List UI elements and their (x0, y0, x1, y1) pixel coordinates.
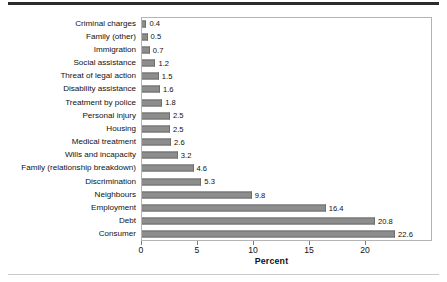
bar-row: Discrimination5.3 (0, 175, 447, 188)
bar-and-value: 3.2 (142, 152, 191, 159)
bar-row: Criminal charges0.4 (0, 17, 447, 30)
category-label: Disability assistance (0, 85, 136, 93)
bar-row: Neighbours9.8 (0, 188, 447, 201)
bar-and-value: 4.6 (142, 165, 207, 172)
bar-value-label: 5.3 (204, 178, 215, 186)
bar-row: Housing2.5 (0, 122, 447, 135)
bar-value-label: 4.6 (197, 165, 208, 173)
bar-value-label: 1.8 (165, 99, 176, 107)
bar-row: Employment16.4 (0, 201, 447, 214)
category-label: Treatment by police (0, 99, 136, 107)
category-label: Housing (0, 125, 136, 133)
bar (142, 231, 395, 238)
bar-row: Medical treatment2.6 (0, 136, 447, 149)
bar-and-value: 0.7 (142, 46, 163, 53)
bar-value-label: 0.4 (149, 20, 160, 28)
top-divider-rule (8, 2, 439, 5)
bar-and-value: 9.8 (142, 191, 265, 198)
bar (142, 204, 326, 211)
bar-row: Threat of legal action1.5 (0, 70, 447, 83)
category-label: Family (relationship breakdown) (0, 164, 136, 172)
x-axis-title: Percent (0, 256, 447, 266)
bar-value-label: 20.8 (378, 217, 393, 225)
category-label: Family (other) (0, 33, 136, 41)
bar (142, 73, 159, 80)
x-axis-tick-label: 5 (195, 246, 200, 255)
bar (142, 33, 148, 40)
bar-value-label: 1.6 (163, 86, 174, 94)
bar-value-label: 9.8 (255, 191, 266, 199)
bar (142, 99, 162, 106)
bar-rows-container: Criminal charges0.4Family (other)0.5Immi… (0, 17, 447, 241)
bar-and-value: 1.2 (142, 60, 169, 67)
bar-and-value: 16.4 (142, 204, 343, 211)
bar-and-value: 2.5 (142, 112, 184, 119)
x-axis-title-label: Percent (255, 256, 289, 266)
bar (142, 165, 194, 172)
bar-row: Debt20.8 (0, 215, 447, 228)
bar-value-label: 1.2 (158, 59, 169, 67)
category-label: Wills and incapacity (0, 151, 136, 159)
category-label: Debt (0, 217, 136, 225)
bar-and-value: 0.4 (142, 20, 160, 27)
bar-row: Wills and incapacity3.2 (0, 149, 447, 162)
category-label: Personal injury (0, 112, 136, 120)
figure-root: Criminal charges0.4Family (other)0.5Immi… (0, 0, 447, 282)
bar-value-label: 1.5 (162, 72, 173, 80)
bar-and-value: 1.8 (142, 99, 176, 106)
bar (142, 60, 155, 67)
bar-value-label: 22.6 (398, 231, 413, 239)
category-label: Consumer (0, 230, 136, 238)
bar (142, 46, 150, 53)
category-label: Immigration (0, 46, 136, 54)
bottom-divider-rule (8, 274, 439, 275)
bar-value-label: 0.5 (151, 33, 162, 41)
bar (142, 178, 201, 185)
bar (142, 125, 170, 132)
bar-value-label: 16.4 (329, 204, 344, 212)
category-label: Neighbours (0, 191, 136, 199)
bar (142, 218, 375, 225)
category-label: Threat of legal action (0, 72, 136, 80)
bar-and-value: 22.6 (142, 231, 413, 238)
bar-value-label: 0.7 (153, 46, 164, 54)
x-axis-tick-label: 15 (304, 246, 314, 255)
bar (142, 152, 178, 159)
bar-value-label: 3.2 (181, 152, 192, 160)
category-label: Discrimination (0, 178, 136, 186)
bar-row: Disability assistance1.6 (0, 83, 447, 96)
category-label: Employment (0, 204, 136, 212)
category-label: Social assistance (0, 59, 136, 67)
bar-row: Social assistance1.2 (0, 57, 447, 70)
bar (142, 20, 146, 27)
x-axis: 05101520 (141, 241, 432, 242)
bar-and-value: 2.5 (142, 125, 184, 132)
x-axis-tick-label: 10 (248, 246, 258, 255)
bar-row: Family (relationship breakdown)4.6 (0, 162, 447, 175)
bar-value-label: 2.5 (173, 112, 184, 120)
bar (142, 86, 160, 93)
category-label: Criminal charges (0, 20, 136, 28)
bar-row: Treatment by police1.8 (0, 96, 447, 109)
bar-and-value: 0.5 (142, 33, 161, 40)
bar-and-value: 20.8 (142, 218, 393, 225)
x-axis-tick-label: 0 (139, 246, 144, 255)
bar-row: Personal injury2.5 (0, 109, 447, 122)
bar-row: Family (other)0.5 (0, 30, 447, 43)
category-label: Medical treatment (0, 138, 136, 146)
bar-and-value: 2.6 (142, 139, 185, 146)
bar-value-label: 2.6 (174, 138, 185, 146)
bar-row: Immigration0.7 (0, 43, 447, 56)
x-axis-tick-label: 20 (360, 246, 370, 255)
bar-value-label: 2.5 (173, 125, 184, 133)
bar-and-value: 1.6 (142, 86, 173, 93)
bar (142, 139, 171, 146)
bar-row: Consumer22.6 (0, 228, 447, 241)
bar-and-value: 5.3 (142, 178, 215, 185)
bar-and-value: 1.5 (142, 73, 172, 80)
bar (142, 191, 252, 198)
bar (142, 112, 170, 119)
